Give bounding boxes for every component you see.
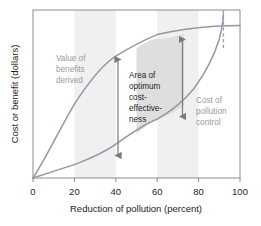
xtick-label-100: 100 (232, 186, 248, 197)
optimum-line-2: optimum (129, 82, 161, 91)
cost-of-pollution-line-1: Cost of (196, 96, 223, 105)
x-axis-title: Reduction of pollution (percent) (70, 203, 202, 214)
chart-root: Value of benefits derived Area of optimu… (0, 0, 261, 226)
xtick-label-0: 0 (30, 186, 35, 197)
value-of-benefits-line-1: Value of (56, 54, 86, 63)
optimum-line-3: cost- (129, 93, 147, 102)
value-of-benefits-line-3: derived (56, 76, 83, 85)
x-axis-ticks (33, 178, 240, 182)
value-of-benefits-label: Value of benefits derived (56, 54, 86, 85)
xtick-label-40: 40 (111, 186, 122, 197)
value-of-benefits-line-2: benefits (56, 65, 85, 74)
cost-of-pollution-line-2: pollution (196, 107, 227, 116)
xtick-label-60: 60 (152, 186, 163, 197)
optimum-line-5: ness (129, 115, 146, 124)
optimum-line-1: Area of (129, 71, 156, 80)
cost-of-pollution-label: Cost of pollution control (196, 96, 227, 127)
cost-of-pollution-line-3: control (196, 118, 221, 127)
xtick-label-20: 20 (69, 186, 80, 197)
y-axis-title: Cost or benefit (dollars) (9, 45, 20, 144)
optimum-line-4: effective- (129, 104, 162, 113)
page-caption-ghost (0, 218, 261, 226)
cost-benefit-pollution-chart: Value of benefits derived Area of optimu… (0, 0, 261, 226)
xtick-label-80: 80 (193, 186, 204, 197)
x-axis-tick-labels: 0 20 40 60 80 100 (30, 186, 248, 197)
